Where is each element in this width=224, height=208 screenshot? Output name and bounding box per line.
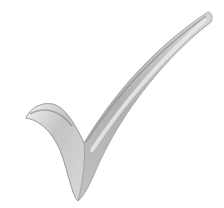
checkmark-icon <box>0 0 224 208</box>
checkmark-illustration: Checkmark <box>0 0 224 208</box>
checkmark-left-arm <box>26 104 85 201</box>
